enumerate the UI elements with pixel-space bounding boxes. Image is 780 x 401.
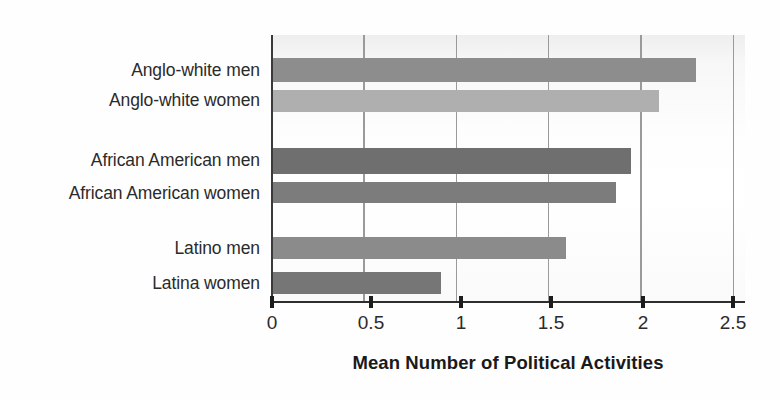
bar-latino-men <box>271 237 566 259</box>
x-axis-line <box>271 301 745 303</box>
bar-anglo-white-men <box>271 58 696 82</box>
tick-mark-0.5 <box>369 296 373 308</box>
bar-chart-figure: Anglo-white men Anglo-white women Africa… <box>0 0 780 401</box>
category-label-african-american-women: African American women <box>2 183 260 203</box>
tick-label-0: 0 <box>267 312 278 334</box>
tick-label-2: 2 <box>638 312 649 334</box>
tick-label-0.5: 0.5 <box>358 312 384 334</box>
tick-mark-1 <box>459 296 463 308</box>
bar-anglo-white-women <box>271 90 659 112</box>
category-label-african-american-men: African American men <box>2 150 260 170</box>
tick-mark-2.5 <box>731 296 735 308</box>
category-label-anglo-white-men: Anglo-white men <box>2 60 260 80</box>
category-label-anglo-white-women: Anglo-white women <box>2 90 260 110</box>
tick-label-1.5: 1.5 <box>538 312 564 334</box>
x-axis-title: Mean Number of Political Activities <box>271 352 745 374</box>
bar-latina-women <box>271 272 441 294</box>
tick-label-1: 1 <box>456 312 467 334</box>
category-label-latina-women: Latina women <box>2 273 260 293</box>
bar-african-american-men <box>271 148 631 174</box>
category-axis-labels: Anglo-white men Anglo-white women Africa… <box>0 35 266 301</box>
tick-mark-1.5 <box>549 296 553 308</box>
bar-african-american-women <box>271 182 616 203</box>
category-label-latino-men: Latino men <box>2 238 260 258</box>
y-axis-line <box>271 35 273 302</box>
tick-mark-2 <box>641 296 645 308</box>
tick-mark-0 <box>270 296 274 308</box>
tick-label-2.5: 2.5 <box>720 312 746 334</box>
plot-area <box>271 35 745 301</box>
gridline-2.5 <box>733 35 735 301</box>
